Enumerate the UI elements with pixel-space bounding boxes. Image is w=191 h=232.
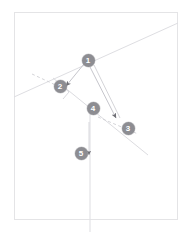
marker-4[interactable]: 4 [87, 102, 100, 115]
figure-border [15, 13, 178, 220]
diagram-vector-layer [0, 0, 191, 232]
primary-diagonal-line [14, 23, 178, 97]
figure-canvas: 1 2 3 4 5 [0, 0, 191, 232]
leader-line-1-to-2 [66, 64, 84, 86]
marker-2[interactable]: 2 [54, 80, 67, 93]
marker-3[interactable]: 3 [122, 122, 135, 135]
secondary-diagonal-line [53, 78, 148, 155]
marker-1[interactable]: 1 [82, 54, 95, 67]
marker-5[interactable]: 5 [75, 147, 88, 160]
